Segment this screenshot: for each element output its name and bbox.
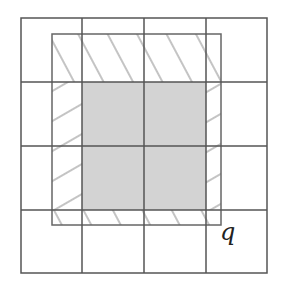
hatch-top-strip — [52, 34, 221, 82]
grid-diagram — [0, 0, 286, 290]
label-q: q — [220, 220, 235, 244]
hatch-bottom-strip — [52, 210, 221, 225]
